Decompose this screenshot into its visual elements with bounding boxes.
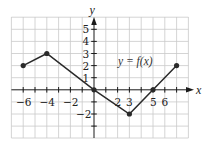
x-tick-label: −4 <box>40 96 56 108</box>
function-graph: −6 −4 −2 2 3 5 6 5 4 3 2 1 −2 y x y = f(… <box>0 0 204 147</box>
y-tick-label: 2 <box>83 60 90 72</box>
function-label: y = f(x) <box>117 55 153 68</box>
point-marker <box>127 111 132 116</box>
x-tick-label: −2 <box>63 96 78 108</box>
point-marker <box>150 87 155 92</box>
y-tick-label: 3 <box>83 48 90 60</box>
y-tick-label: −2 <box>76 108 91 120</box>
point-marker <box>44 51 49 56</box>
y-axis-arrow-icon <box>91 17 97 25</box>
y-axis-label: y <box>89 3 96 17</box>
y-tick-label: 5 <box>83 23 90 35</box>
y-tick-label: 4 <box>83 35 90 47</box>
point-marker <box>21 63 26 68</box>
x-axis-arrow-icon <box>186 87 194 93</box>
point-marker <box>174 63 179 68</box>
x-axis-label: x <box>195 83 202 97</box>
point-marker <box>91 87 96 92</box>
x-tick-label: 5 <box>150 96 157 108</box>
x-tick-label: 3 <box>126 96 133 108</box>
grid <box>11 17 188 138</box>
x-tick-label: −6 <box>16 96 32 108</box>
x-tick-label: 6 <box>162 96 169 108</box>
